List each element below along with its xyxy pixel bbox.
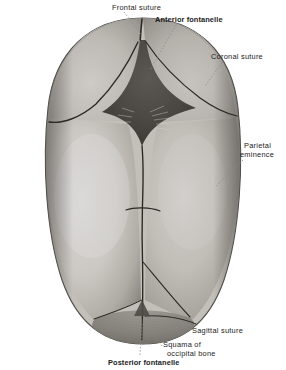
label-frontal-suture: Frontal suture	[112, 3, 161, 12]
label-sagittal-suture: Sagittal suture	[192, 326, 243, 335]
label-squama-line1: Squama of	[163, 340, 201, 349]
label-parietal-eminence-line2: eminence	[240, 150, 274, 159]
sagittal-suture-occipital-extension	[142, 318, 143, 340]
label-parietal-eminence-line1: Parietal	[244, 141, 271, 150]
label-squama-line2: occipital bone	[167, 349, 216, 358]
label-anterior-fontanelle: Anterior fontanelle	[155, 15, 223, 24]
label-posterior-fontanelle: Posterior fontanelle	[108, 358, 179, 367]
label-coronal-suture: Coronal suture	[211, 52, 263, 61]
